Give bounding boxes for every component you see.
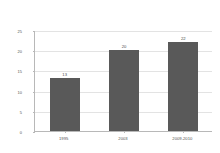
gridline (35, 31, 212, 32)
y-tick-label: 5 (6, 109, 22, 114)
bar (109, 50, 139, 131)
x-tick-label: 2009-2010 (157, 136, 207, 141)
x-tick-mark (124, 131, 125, 133)
x-tick-mark (183, 131, 184, 133)
y-tick-mark (33, 31, 35, 32)
bar-value-label: 13 (53, 72, 77, 77)
y-tick-label: 25 (6, 29, 22, 34)
x-tick-mark (65, 131, 66, 133)
bar-value-label: 22 (171, 36, 195, 41)
bar-chart: Median Duration of 1st Premarital Cohabi… (0, 0, 220, 153)
y-tick-mark (33, 92, 35, 93)
bar-value-label: 20 (112, 44, 136, 49)
y-tick-mark (33, 132, 35, 133)
y-tick-label: 0 (6, 130, 22, 135)
plot-area: 0510152025 132022 (34, 31, 212, 132)
bar (168, 42, 198, 131)
x-tick-label: 1995 (39, 136, 89, 141)
y-tick-mark (33, 51, 35, 52)
x-tick-label: 2003 (98, 136, 148, 141)
y-tick-mark (33, 71, 35, 72)
y-tick-label: 15 (6, 69, 22, 74)
y-tick-label: 10 (6, 89, 22, 94)
y-tick-label: 20 (6, 49, 22, 54)
y-tick-mark (33, 112, 35, 113)
bar (50, 78, 80, 131)
